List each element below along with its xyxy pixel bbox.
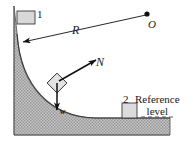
reference-level-label: Reference level — [135, 94, 180, 117]
figure-canvas — [0, 0, 193, 142]
weight-label: w — [60, 108, 65, 116]
radius-label: R — [72, 24, 79, 37]
center-point-label: O — [148, 19, 156, 31]
center-point-dot — [144, 11, 149, 16]
reference-level-line-1: Reference — [135, 93, 180, 105]
position-1-label: 1 — [37, 9, 43, 21]
reference-level-line-2: level — [147, 105, 168, 117]
physics-figure: R O 1 N w 2 Reference level — [0, 0, 193, 142]
normal-force-vector — [59, 60, 96, 81]
position-2-label: 2 — [123, 94, 129, 106]
block-position-1 — [17, 11, 35, 24]
normal-force-label: N — [96, 56, 104, 69]
